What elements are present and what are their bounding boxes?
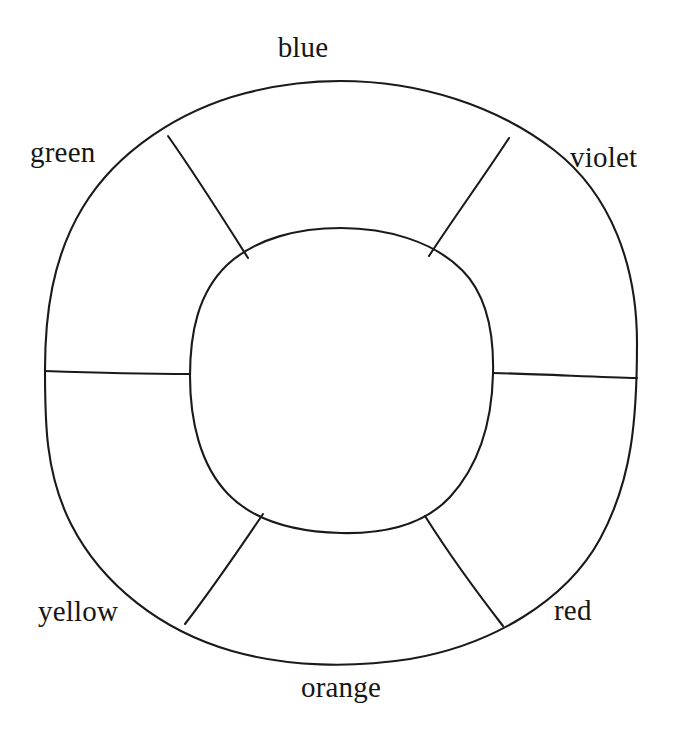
segment-label-green: green bbox=[30, 138, 95, 167]
segment-label-red: red bbox=[554, 596, 592, 625]
color-wheel-figure: blue green violet yellow red orange bbox=[0, 0, 679, 745]
divider-green-blue bbox=[168, 136, 248, 258]
segment-label-orange: orange bbox=[301, 673, 381, 702]
segment-label-yellow: yellow bbox=[38, 597, 118, 626]
divider-right bbox=[493, 373, 637, 378]
divider-left bbox=[45, 371, 190, 374]
divider-yellow-orange bbox=[185, 514, 263, 624]
divider-orange-red bbox=[425, 516, 503, 626]
inner-circle bbox=[190, 228, 493, 533]
color-wheel-svg bbox=[0, 0, 679, 745]
segment-label-violet: violet bbox=[570, 143, 637, 172]
divider-blue-violet bbox=[429, 138, 509, 256]
segment-label-blue: blue bbox=[278, 33, 329, 62]
